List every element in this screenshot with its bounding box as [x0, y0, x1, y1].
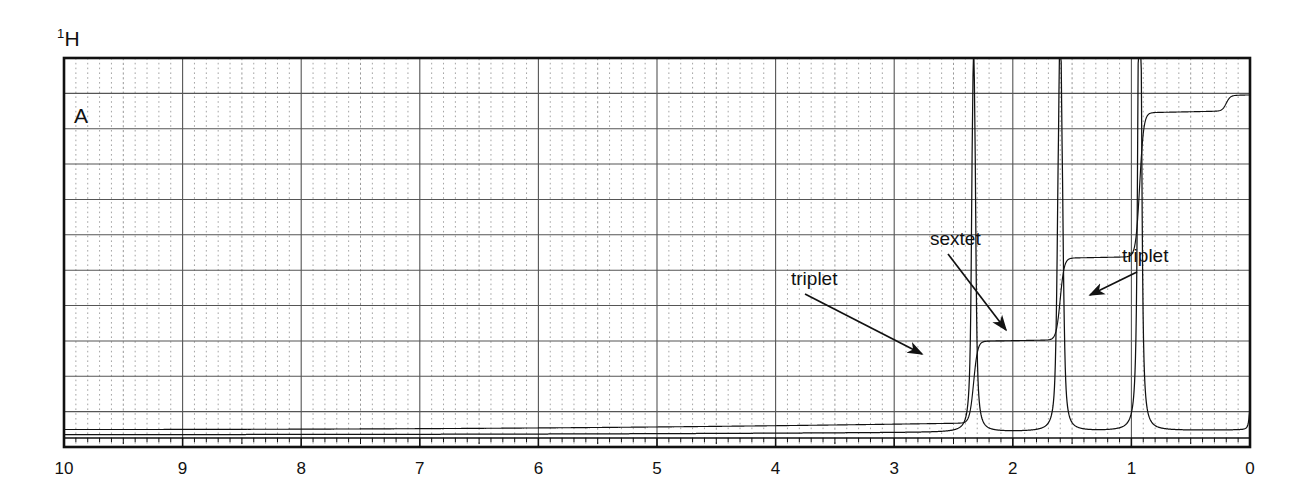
x-axis-label: 10: [55, 459, 74, 479]
x-axis-label: 6: [534, 459, 543, 479]
x-axis-label: 7: [415, 459, 424, 479]
nmr-plot-canvas: [0, 0, 1315, 498]
panel-label: A: [74, 104, 88, 128]
annotation-sextet: sextet: [930, 228, 981, 250]
x-axis-label: 2: [1008, 459, 1017, 479]
x-axis-label: 4: [771, 459, 780, 479]
arrow-triplet-right: [1090, 272, 1137, 295]
nucleus-element: H: [64, 27, 79, 50]
annotation-triplet-left: triplet: [791, 268, 837, 290]
annotation-triplet-right: triplet: [1122, 245, 1168, 267]
x-axis-label: 5: [652, 459, 661, 479]
x-axis-label: 9: [178, 459, 187, 479]
x-axis-label: 1: [1127, 459, 1136, 479]
grid: [64, 58, 1250, 447]
x-axis-label: 8: [296, 459, 305, 479]
spectrum-figure: 1H A sextet triplet triplet 109876543210: [0, 0, 1315, 498]
x-axis-ticks: [64, 438, 1250, 447]
x-axis-label: 0: [1245, 459, 1254, 479]
arrow-triplet-left: [805, 294, 922, 354]
x-axis-label: 3: [889, 459, 898, 479]
nucleus-label: 1H: [57, 26, 80, 51]
